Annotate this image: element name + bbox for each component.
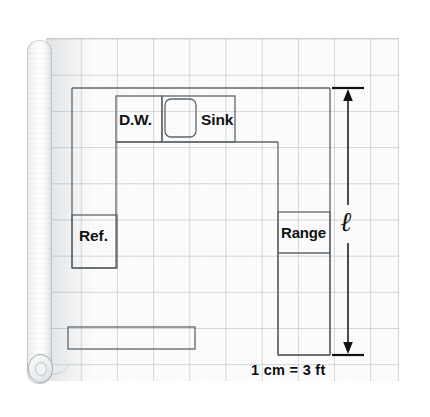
sink-basin (165, 99, 196, 137)
dimension-arrowhead-down (343, 342, 353, 354)
dishwasher-label: D.W. (119, 112, 152, 128)
counter-run-outline (72, 88, 330, 355)
refrigerator-label: Ref. (79, 228, 108, 244)
island-counter (68, 327, 195, 349)
length-variable-label: ℓ (340, 208, 351, 235)
floor-plan-drawing (0, 0, 430, 417)
range-label: Range (281, 225, 326, 240)
sink-label: Sink (201, 112, 233, 128)
figure-canvas: D.W. Sink Ref. Range ℓ 1 cm = 3 ft (0, 0, 430, 417)
scale-legend: 1 cm = 3 ft (251, 363, 326, 378)
dimension-arrowhead-up (343, 89, 353, 101)
